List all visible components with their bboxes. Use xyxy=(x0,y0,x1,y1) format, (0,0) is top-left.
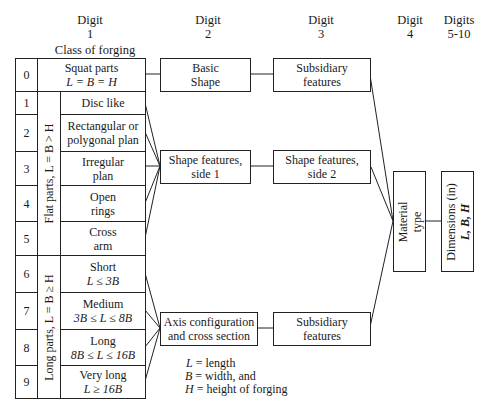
digit-5: 5 xyxy=(24,232,30,246)
legend-l-text: = length xyxy=(193,356,236,370)
row-7-label: Medium xyxy=(83,297,124,311)
digit-8: 8 xyxy=(24,341,30,355)
digit-4: 4 xyxy=(24,197,30,211)
shape-side1-line2: side 1 xyxy=(191,167,219,181)
class-row-6: Short L ≤ 3B xyxy=(60,255,146,293)
basic-shape-line2: Shape xyxy=(191,75,220,89)
subsidiary-top-line1: Subsidiary xyxy=(296,61,347,75)
legend-h-text: = height of forging xyxy=(194,382,288,396)
dimensions-line2: L, B, H xyxy=(458,183,472,261)
digit-9: 9 xyxy=(24,375,30,389)
row-3-sub: plan xyxy=(93,169,114,183)
legend-height: H = height of forging xyxy=(185,383,288,396)
shape-side2-line1: Shape features, xyxy=(285,153,358,167)
row-6-label: Short xyxy=(90,260,116,274)
axis-config-line1: Axis configuration xyxy=(164,315,254,329)
axis-configuration-box: Axis configuration and cross section xyxy=(160,312,258,346)
digit-cell-7: 7 xyxy=(15,292,38,330)
shape-features-side1-box: Shape features, side 1 xyxy=(160,150,251,184)
row-2-sub: polygonal plan xyxy=(67,133,139,147)
subsidiary-features-bottom-box: Subsidiary features xyxy=(273,312,371,346)
subsidiary-features-top-box: Subsidiary features xyxy=(273,58,371,92)
row-4-sub: rings xyxy=(91,204,115,218)
digit-6: 6 xyxy=(24,267,30,281)
row-8-sub: 8B ≤ L ≤ 16B xyxy=(71,348,135,362)
digit-0: 0 xyxy=(24,68,30,82)
legend: L = length B = width, and H = height of … xyxy=(186,357,288,396)
digit-cell-6: 6 xyxy=(15,255,38,293)
digit-cell-2: 2 xyxy=(15,114,38,152)
digit-cell-4: 4 xyxy=(15,185,38,222)
digit-7: 7 xyxy=(24,304,30,318)
digit-2: 2 xyxy=(24,126,30,140)
shape-features-side2-box: Shape features, side 2 xyxy=(273,150,371,184)
row-2-label: Rectangular or xyxy=(68,119,139,133)
row-4-label: Open xyxy=(90,190,116,204)
material-type-line1: Material xyxy=(396,201,410,242)
class-row-9: Very long L ≥ 16B xyxy=(60,365,146,399)
shape-side2-line2: side 2 xyxy=(308,167,336,181)
row-5-label: Cross xyxy=(89,225,116,239)
axis-config-line2: and cross section xyxy=(168,329,250,343)
digit-cell-0: 0 xyxy=(15,58,38,92)
shape-side1-line1: Shape features, xyxy=(169,153,242,167)
legend-l-symbol: L xyxy=(186,356,193,370)
class-row-5: Cross arm xyxy=(60,221,146,256)
squat-parts-condition: L = B = H xyxy=(66,75,117,89)
flat-parts-text: Flat parts, L = B > H xyxy=(42,123,57,223)
row-8-label: Long xyxy=(90,334,115,348)
subsidiary-bottom-line1: Subsidiary xyxy=(296,315,347,329)
class-row-7: Medium 3B ≤ L ≤ 8B xyxy=(60,292,146,330)
long-parts-text: Long parts, L = B ≥ H xyxy=(42,274,57,381)
row-9-label: Very long xyxy=(80,368,127,382)
digit-3: 3 xyxy=(24,162,30,176)
digit-cell-1: 1 xyxy=(15,91,38,115)
class-row-4: Open rings xyxy=(60,185,146,222)
basic-shape-box: Basic Shape xyxy=(160,58,251,92)
material-type-line2: type xyxy=(410,201,424,242)
squat-parts-label: Squat parts xyxy=(65,61,119,75)
dimensions-line1: Dimensions (in) xyxy=(444,183,458,261)
digit-cell-3: 3 xyxy=(15,151,38,186)
class-row-8: Long 8B ≤ L ≤ 16B xyxy=(60,329,146,366)
material-type-box: Material type xyxy=(393,171,426,272)
group-long-parts-label: Long parts, L = B ≥ H xyxy=(37,255,61,399)
subsidiary-top-line2: features xyxy=(303,75,341,89)
basic-shape-line1: Basic xyxy=(192,61,219,75)
group-flat-parts-label: Flat parts, L = B > H xyxy=(37,91,61,256)
digit-cell-5: 5 xyxy=(15,221,38,256)
row-1-label: Disc like xyxy=(82,96,125,110)
row-3-label: Irregular xyxy=(82,155,124,169)
subsidiary-bottom-line2: features xyxy=(303,329,341,343)
legend-h-symbol: H xyxy=(185,382,194,396)
digit-cell-8: 8 xyxy=(15,329,38,366)
class-row-2: Rectangular or polygonal plan xyxy=(60,114,146,152)
digit-cell-9: 9 xyxy=(15,365,38,399)
legend-b-text: = width, and xyxy=(192,369,255,383)
row-6-sub: L ≤ 3B xyxy=(87,274,119,288)
digit-1: 1 xyxy=(24,96,30,110)
row-5-sub: arm xyxy=(94,239,113,253)
class-row-3: Irregular plan xyxy=(60,151,146,186)
class-row-1: Disc like xyxy=(60,91,146,115)
dimensions-box: Dimensions (in) L, B, H xyxy=(441,171,474,272)
row-9-sub: L ≥ 16B xyxy=(84,382,122,396)
row-7-sub: 3B ≤ L ≤ 8B xyxy=(74,311,132,325)
class-row-0-squat-parts: Squat parts L = B = H xyxy=(37,58,146,92)
